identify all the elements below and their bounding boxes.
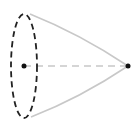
base-center-point	[22, 64, 27, 69]
apex-point	[126, 64, 131, 69]
cone-diagram	[0, 0, 140, 127]
cone-side-bottom	[31, 66, 128, 117]
cone-side-top	[30, 14, 128, 66]
